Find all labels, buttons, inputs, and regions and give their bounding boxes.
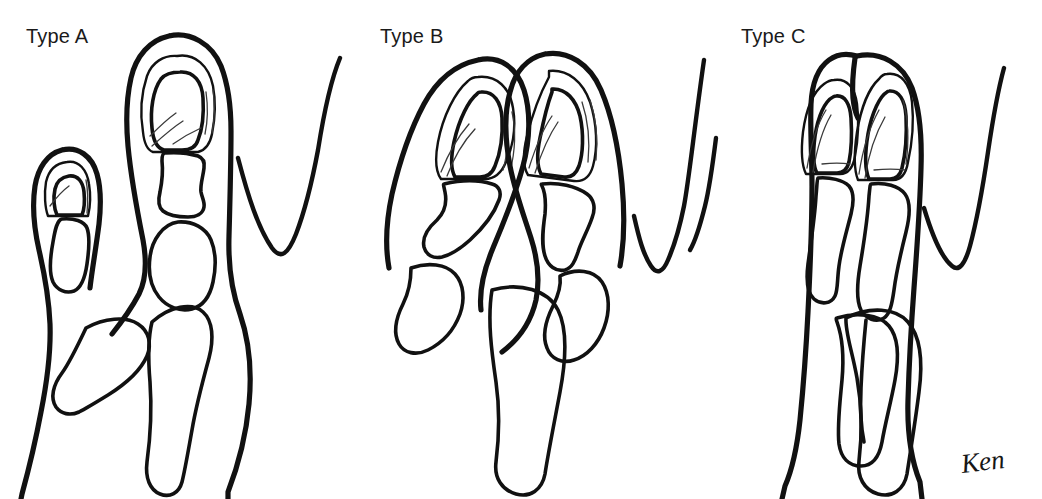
panel-label-type-c: Type C	[741, 25, 806, 48]
panel-type-b-drawing	[387, 53, 704, 495]
type-a-main-proximal-phalanx	[149, 222, 215, 310]
type-c-left-nail-bed	[814, 96, 852, 173]
type-a-accessory-distal-phalanx	[50, 219, 89, 292]
type-b-left-proximal-phalanx	[396, 265, 463, 353]
type-a-shared-proximal-bone	[53, 319, 149, 414]
type-c-right-distal-phalanx	[858, 183, 910, 320]
type-c-left-web-space-line	[690, 138, 716, 250]
type-b-right-nail-bed	[538, 89, 583, 177]
panel-type-a-drawing	[21, 35, 340, 499]
type-b-right-digit-outline	[502, 53, 624, 352]
panel-label-type-a: Type A	[26, 25, 88, 48]
type-b-right-distal-phalanx	[541, 183, 594, 270]
panel-label-type-b: Type B	[380, 25, 443, 48]
artist-signature: Ken	[959, 444, 1006, 480]
type-b-left-distal-phalanx	[424, 181, 501, 258]
type-a-main-digit-outline	[112, 35, 250, 499]
type-c-bifid-middle-phalanx	[836, 315, 897, 466]
type-a-web-space-line	[238, 58, 340, 254]
type-c-right-web-space-line	[924, 68, 1004, 268]
panel-type-c-drawing	[690, 54, 1004, 499]
type-a-accessory-digit-outline	[21, 149, 100, 499]
line-drawing-canvas	[0, 0, 1042, 499]
type-a-main-metacarpal	[147, 307, 212, 496]
type-c-right-nail-bed	[866, 91, 906, 179]
type-b-right-proximal-phalanx	[545, 271, 609, 361]
type-a-main-nail-bed	[151, 72, 203, 150]
type-a-main-distal-phalanx	[159, 153, 204, 217]
polydactyly-classification-figure: Type A Type B Type C Ken	[0, 0, 1042, 499]
type-b-right-nail-plate	[524, 71, 596, 181]
type-b-left-nail-bed	[452, 92, 502, 177]
